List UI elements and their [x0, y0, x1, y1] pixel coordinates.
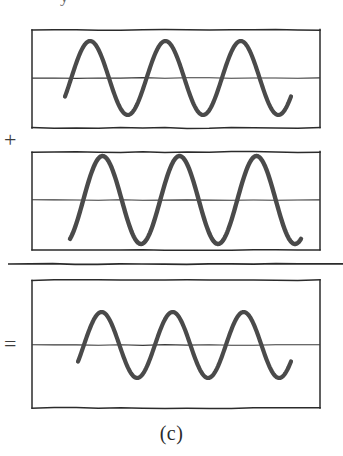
- panel-wave-middle: [32, 151, 320, 250]
- panel-wave-top: [32, 30, 320, 129]
- panel-wave-sum: [32, 280, 320, 409]
- wave-top-frame-bottom: [32, 128, 320, 129]
- wave-sum-axis-line: [32, 345, 320, 346]
- wave-top-frame-top: [32, 30, 320, 31]
- divider-group: [8, 264, 343, 265]
- plus-operator: +: [4, 129, 16, 151]
- wave-top-axis-line: [32, 78, 320, 79]
- wave-sum-frame-top: [32, 280, 320, 281]
- sum-rule-line: [8, 264, 343, 265]
- panels-group: [32, 30, 320, 409]
- wave-sum-frame-bottom: [32, 407, 320, 408]
- figure-caption: (c): [0, 422, 343, 445]
- wave-middle-frame-bottom: [32, 250, 320, 251]
- figure-canvas: [0, 0, 343, 456]
- wave-superposition-figure: y + = (c): [0, 0, 343, 456]
- equals-operator: =: [4, 333, 16, 355]
- wave-middle-frame-top: [32, 151, 320, 152]
